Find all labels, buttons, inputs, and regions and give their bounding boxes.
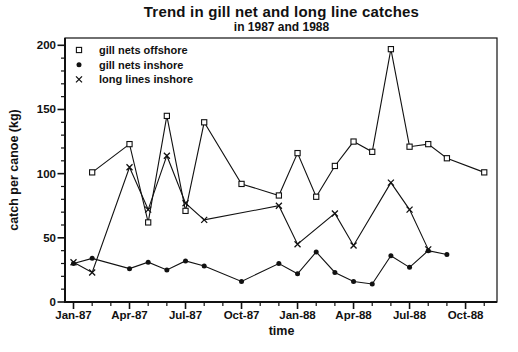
data-point-long-lines-inshore xyxy=(89,269,95,275)
data-point-long-lines-inshore xyxy=(407,207,413,213)
data-point-gill-nets-inshore xyxy=(444,252,449,257)
data-point-gill-nets-offshore xyxy=(444,156,449,161)
data-point-gill-nets-offshore xyxy=(90,170,95,175)
data-point-gill-nets-offshore xyxy=(202,120,207,125)
legend-marker-x-cross xyxy=(76,76,82,82)
legend-marker-open-square xyxy=(76,47,81,52)
x-tick-label: Jan-87 xyxy=(55,309,91,321)
data-point-gill-nets-offshore xyxy=(276,193,281,198)
data-point-gill-nets-inshore xyxy=(332,270,337,275)
data-point-long-lines-inshore xyxy=(388,180,394,186)
legend-label: gill nets offshore xyxy=(99,44,188,56)
x-tick-label: Jul-88 xyxy=(393,309,427,321)
y-tick-label: 200 xyxy=(37,39,56,51)
chart: Trend in gill net and long line catches … xyxy=(0,0,518,352)
series-line-long-lines-inshore xyxy=(74,156,429,273)
data-point-long-lines-inshore xyxy=(332,210,338,216)
data-point-gill-nets-inshore xyxy=(370,282,375,287)
x-tick-label: Apr-87 xyxy=(111,309,147,321)
data-point-gill-nets-offshore xyxy=(164,113,169,118)
legend-label: long lines inshore xyxy=(99,73,193,85)
y-tick-label: 0 xyxy=(50,296,56,308)
data-point-gill-nets-inshore xyxy=(90,256,95,261)
data-point-gill-nets-offshore xyxy=(426,142,431,147)
data-point-gill-nets-inshore xyxy=(127,266,132,271)
data-point-gill-nets-inshore xyxy=(276,261,281,266)
data-point-gill-nets-inshore xyxy=(388,253,393,258)
data-point-gill-nets-inshore xyxy=(295,271,300,276)
legend-marker-filled-circle xyxy=(77,62,82,67)
data-point-long-lines-inshore xyxy=(351,243,357,249)
data-point-gill-nets-offshore xyxy=(407,144,412,149)
data-point-gill-nets-inshore xyxy=(351,279,356,284)
x-tick-label: Jul-87 xyxy=(169,309,202,321)
data-point-gill-nets-inshore xyxy=(239,279,244,284)
data-point-gill-nets-inshore xyxy=(202,264,207,269)
x-tick-label: Oct-87 xyxy=(224,309,260,321)
data-point-gill-nets-offshore xyxy=(146,220,151,225)
data-point-gill-nets-offshore xyxy=(370,149,375,154)
data-point-gill-nets-inshore xyxy=(164,267,169,272)
data-point-gill-nets-offshore xyxy=(314,194,319,199)
x-tick-label: Jan-88 xyxy=(279,309,316,321)
data-point-gill-nets-offshore xyxy=(183,208,188,213)
y-tick-label: 100 xyxy=(37,168,56,180)
data-point-gill-nets-inshore xyxy=(183,258,188,263)
y-tick-label: 150 xyxy=(37,103,56,115)
data-point-gill-nets-offshore xyxy=(239,181,244,186)
plot-area: 050100150200Jan-87Apr-87Jul-87Oct-87Jan-… xyxy=(0,0,518,352)
data-point-long-lines-inshore xyxy=(127,164,133,170)
x-tick-label: Oct-88 xyxy=(448,309,484,321)
legend-label: gill nets inshore xyxy=(99,59,183,71)
data-point-gill-nets-offshore xyxy=(295,151,300,156)
data-point-long-lines-inshore xyxy=(164,153,170,159)
data-point-gill-nets-inshore xyxy=(407,265,412,270)
y-tick-label: 50 xyxy=(43,232,56,244)
data-point-gill-nets-offshore xyxy=(127,142,132,147)
data-point-gill-nets-inshore xyxy=(314,249,319,254)
x-tick-label: Apr-88 xyxy=(335,309,372,321)
data-point-long-lines-inshore xyxy=(295,241,301,247)
data-point-gill-nets-offshore xyxy=(388,47,393,52)
data-point-gill-nets-inshore xyxy=(146,260,151,265)
data-point-gill-nets-offshore xyxy=(351,139,356,144)
data-point-gill-nets-offshore xyxy=(482,170,487,175)
data-point-gill-nets-offshore xyxy=(332,163,337,168)
